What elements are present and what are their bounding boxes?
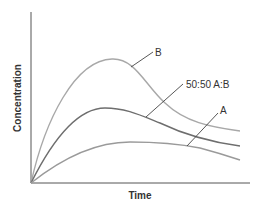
series-b-line <box>31 59 240 183</box>
concentration-time-chart: B 50:50 A:B A Time Concentration <box>0 0 258 213</box>
series-a-line <box>31 142 240 183</box>
label-a: A <box>220 105 227 116</box>
y-axis-label: Concentration <box>12 64 23 132</box>
series-mix-line <box>31 108 240 183</box>
x-axis-label: Time <box>128 190 152 201</box>
label-mix: 50:50 A:B <box>186 79 230 90</box>
label-b: B <box>155 47 162 58</box>
label-b-leader <box>131 52 153 67</box>
